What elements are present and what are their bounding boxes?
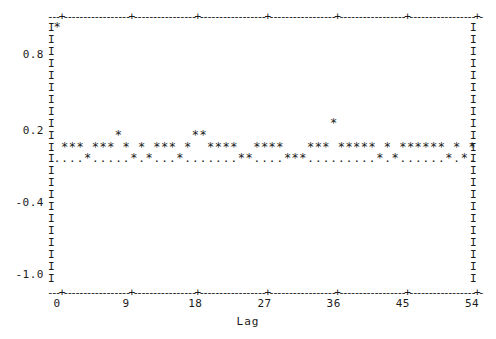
acf-marker: *	[138, 142, 146, 153]
acf-marker: *	[76, 142, 84, 153]
acf-marker: *	[122, 142, 130, 153]
acf-marker: *	[453, 142, 461, 153]
baseline-dot: .	[468, 153, 476, 164]
acf-marker: *	[114, 130, 122, 141]
x-axis-title: Lag	[0, 316, 496, 327]
acf-marker: *	[330, 118, 338, 129]
y-tick-label-1: 0.2	[0, 125, 44, 136]
acf-marker: *	[276, 142, 284, 153]
acf-marker: *	[230, 142, 238, 153]
y-tick-label-0: 0.8	[0, 49, 44, 60]
acf-marker: *	[437, 142, 445, 153]
y-tick-label-2: -0.4	[0, 197, 44, 208]
x-tick-label: 9	[113, 298, 139, 309]
x-tick-label: 36	[321, 298, 347, 309]
acf-marker: *	[107, 142, 115, 153]
x-tick-label: 18	[182, 298, 208, 309]
x-tick-label: 45	[390, 298, 416, 309]
acf-marker: *	[199, 130, 207, 141]
x-tick-label: 27	[252, 298, 278, 309]
acf-marker: *	[383, 142, 391, 153]
acf-marker: *	[184, 142, 192, 153]
plot-frame-top: ---+-----------------+----------------+-…	[47, 11, 482, 22]
acf-marker: *	[53, 22, 61, 33]
acf-marker: *	[168, 142, 176, 153]
x-tick-label: 0	[44, 298, 70, 309]
acf-marker: *	[468, 142, 476, 153]
acf-marker: *	[322, 142, 330, 153]
acf-character-plot: 0.8 0.2 -0.4 -1.0 ---+-----------------+…	[0, 0, 496, 339]
acf-marker: *	[368, 142, 376, 153]
y-tick-label-3: -1.0	[0, 269, 44, 280]
x-tick-label: 54	[459, 298, 485, 309]
